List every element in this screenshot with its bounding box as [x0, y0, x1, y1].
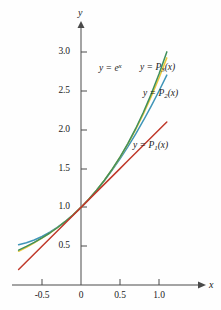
- x-tick-label-1-0: 1.0: [147, 290, 171, 300]
- y-tick-label-1-0: 1.0: [48, 201, 70, 211]
- plot-canvas: [0, 0, 221, 310]
- x-tick-label-0: 0: [73, 290, 89, 300]
- label-p3: y = P3(x): [140, 62, 175, 74]
- label-p2: y = P2(x): [143, 88, 178, 100]
- y-tick-label-3-0: 3.0: [48, 46, 70, 56]
- y-tick-label-1-5: 1.5: [48, 163, 70, 173]
- label-p1-tail: (x): [158, 140, 169, 150]
- y-tick-label-2-0: 2.0: [48, 124, 70, 134]
- label-exponential-exponent: x: [119, 62, 122, 70]
- y-axis-label: y: [78, 7, 82, 18]
- label-exponential-lhs: y = e: [99, 63, 119, 73]
- taylor-polynomial-figure: 3.0 2.5 2.0 1.5 1.0 0.5 -0.5 0 0.5 1.0 y…: [0, 0, 221, 310]
- x-tick-label-0-5: 0.5: [108, 290, 132, 300]
- label-p1: y = P1(x): [133, 140, 168, 152]
- label-p3-lhs: y = P: [140, 62, 161, 72]
- y-axis: [78, 21, 88, 285]
- y-tick-label-2-5: 2.5: [48, 85, 70, 95]
- x-axis-label: x: [209, 279, 213, 290]
- label-p3-tail: (x): [165, 62, 176, 72]
- curves: [19, 52, 167, 270]
- label-p2-lhs: y = P: [143, 88, 164, 98]
- label-p1-lhs: y = P: [133, 140, 154, 150]
- curve-p2: [19, 75, 167, 245]
- x-tick-label-minus-0-5: -0.5: [28, 290, 56, 300]
- label-exponential: y = ex: [99, 62, 122, 73]
- x-axis: [12, 279, 206, 289]
- curve-p3: [19, 58, 167, 251]
- label-p2-tail: (x): [168, 88, 179, 98]
- y-tick-label-0-5: 0.5: [48, 240, 70, 250]
